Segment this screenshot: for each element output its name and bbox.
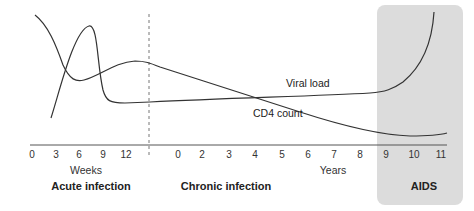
years-unit-label: Years (320, 164, 346, 176)
tick-year-11: 11 (436, 149, 446, 160)
tick-week-3: 3 (53, 149, 59, 160)
cd4-count-curve (35, 15, 447, 136)
aids-label: AIDS (411, 180, 437, 192)
tick-year-10: 10 (408, 149, 419, 160)
tick-year-8: 8 (357, 149, 363, 160)
tick-year-4: 4 (252, 149, 258, 160)
cd4-count-label: CD4 count (253, 107, 303, 119)
tick-year-5: 5 (279, 149, 285, 160)
tick-week-12: 12 (120, 149, 131, 160)
chronic-infection-label: Chronic infection (181, 180, 271, 192)
viral-load-curve (51, 12, 434, 118)
tick-week-0: 0 (29, 149, 35, 160)
tick-year-7: 7 (331, 149, 337, 160)
tick-week-6: 6 (76, 149, 82, 160)
tick-year-9: 9 (383, 149, 389, 160)
weeks-unit-label: Weeks (70, 164, 102, 176)
tick-year-3: 3 (226, 149, 232, 160)
tick-year-6: 6 (305, 149, 311, 160)
acute-infection-label: Acute infection (51, 180, 130, 192)
tick-year-2: 2 (199, 149, 205, 160)
viral-load-label: Viral load (286, 77, 330, 89)
tick-week-9: 9 (100, 149, 106, 160)
tick-year-0: 0 (175, 149, 181, 160)
